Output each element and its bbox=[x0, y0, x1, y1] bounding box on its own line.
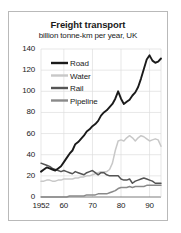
series-line-water bbox=[41, 136, 161, 181]
x-tick-label: 80 bbox=[108, 201, 134, 210]
x-tick-label: 90 bbox=[137, 201, 163, 210]
y-tick-label: 20 bbox=[11, 171, 35, 180]
chart-subtitle: billion tonne-km per year, UK bbox=[9, 31, 167, 40]
legend-label-rail: Rail bbox=[70, 84, 84, 93]
legend-label-water: Water bbox=[70, 72, 91, 81]
y-tick-label: 100 bbox=[11, 86, 35, 95]
y-tick-label: 40 bbox=[11, 150, 35, 159]
plot-area: RoadWaterRailPipeline 020406080100120140… bbox=[9, 43, 169, 221]
chart-title: Freight transport bbox=[9, 19, 167, 30]
series-line-road bbox=[41, 55, 161, 171]
y-tick-label: 80 bbox=[11, 107, 35, 116]
y-tick-label: 60 bbox=[11, 129, 35, 138]
chart-figure: Freight transport billion tonne-km per y… bbox=[8, 11, 168, 221]
x-tick-label: 70 bbox=[79, 201, 105, 210]
legend-label-pipeline: Pipeline bbox=[70, 97, 98, 106]
x-tick-label: 60 bbox=[51, 201, 77, 210]
chart-legend: RoadWaterRailPipeline bbox=[51, 59, 98, 106]
series-line-pipeline bbox=[41, 185, 161, 197]
y-tick-label: 120 bbox=[11, 65, 35, 74]
y-tick-label: 0 bbox=[11, 192, 35, 201]
y-tick-label: 140 bbox=[11, 44, 35, 53]
legend-label-road: Road bbox=[70, 59, 89, 68]
